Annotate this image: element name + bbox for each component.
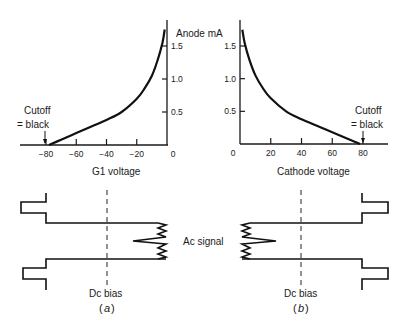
left-lower-step — [23, 259, 166, 290]
left-upper-step — [21, 193, 158, 223]
right-ac-zigzag — [242, 223, 276, 259]
right-x-tick-label: 80 — [358, 148, 368, 158]
right-dc-bias-label: Dc bias — [284, 288, 317, 299]
left-dc-bias-label: Dc bias — [89, 288, 122, 299]
right-x-tick-label: 20 — [266, 148, 276, 158]
caption-b-open: ( — [293, 302, 297, 314]
right-y-tick-label: 1.5 — [224, 41, 236, 51]
left-x-tick-label: −20 — [130, 149, 145, 159]
right-x-tick-label: 40 — [297, 148, 307, 158]
right-cutoff-arrowhead — [361, 138, 365, 143]
caption-a-close: ) — [111, 302, 115, 314]
caption-b: b — [298, 302, 304, 314]
ac-signal-label: Ac signal — [183, 236, 224, 247]
left-cutoff-label-2: = black — [17, 119, 50, 130]
right-cutoff-label: Cutoff — [355, 105, 382, 116]
caption-a: a — [104, 302, 110, 314]
left-y-tick-label: 1.5 — [171, 41, 183, 51]
right-curve — [242, 30, 360, 144]
left-x-tick-label: −80 — [39, 149, 54, 159]
right-lower-step — [242, 259, 388, 290]
right-x-tick-label: 60 — [328, 148, 338, 158]
right-cutoff-label-2: = black — [351, 119, 384, 130]
left-cutoff-label: Cutoff — [24, 105, 51, 116]
right-x-tick-label: 0 — [231, 148, 236, 158]
left-curve — [49, 30, 165, 146]
right-y-tick-label: 1.0 — [224, 74, 236, 84]
left-x-tick-label: 0 — [171, 149, 176, 159]
left-y-tick-label: 1.0 — [171, 74, 183, 84]
figure: −80−60−40−200 0.51.01.5 020406080 0.51.0… — [0, 0, 405, 328]
left-ac-zigzag — [133, 223, 166, 259]
left-x-tick-label: −40 — [99, 149, 114, 159]
right-upper-step — [250, 193, 388, 223]
left-x-label: G1 voltage — [92, 166, 141, 177]
caption-a-open: ( — [99, 302, 103, 314]
left-y-tick-label: 0.5 — [171, 107, 183, 117]
caption-b-close: ) — [305, 302, 309, 314]
right-y-tick-label: 0.5 — [224, 106, 236, 116]
left-x-tick-label: −60 — [69, 149, 84, 159]
right-x-label: Cathode voltage — [277, 166, 350, 177]
y-axis-title: Anode mA — [176, 28, 223, 39]
